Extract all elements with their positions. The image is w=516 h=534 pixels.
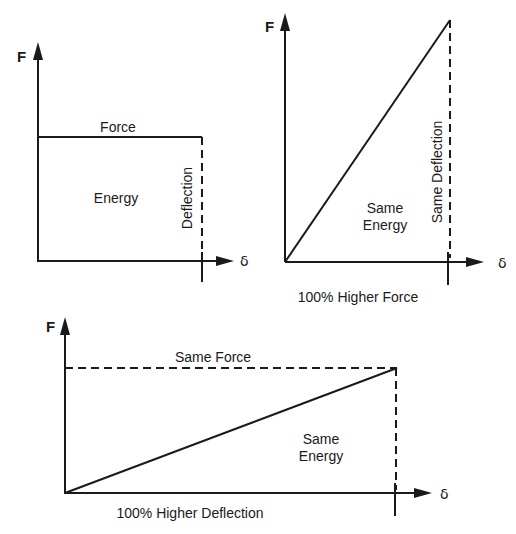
same-energy-label-line1: Same	[367, 200, 404, 216]
energy-label: Energy	[94, 190, 138, 206]
y-axis-arrow-icon	[60, 317, 70, 335]
higher-force-caption: 100% Higher Force	[298, 289, 419, 305]
panel-higher-deflection: F δ Same Force Same Energy 100% Higher D…	[46, 317, 449, 521]
x-axis-arrow-icon	[414, 488, 432, 498]
same-force-label: Same Force	[175, 349, 251, 365]
force-label: Force	[100, 119, 136, 135]
y-axis-label: F	[46, 318, 55, 335]
x-axis-label: δ	[240, 253, 249, 269]
same-energy-label-line2: Energy	[299, 448, 343, 464]
deflection-label: Deflection	[179, 167, 195, 229]
y-axis-arrow-icon	[33, 42, 43, 60]
y-axis-label: F	[265, 18, 274, 35]
same-energy-label-line1: Same	[303, 431, 340, 447]
y-axis-arrow-icon	[280, 13, 290, 31]
x-axis-label: δ	[498, 255, 507, 271]
y-axis-label: F	[17, 48, 26, 65]
x-axis-label: δ	[440, 486, 449, 502]
panel-higher-force: F δ Same Energy Same Deflection 100% Hig…	[265, 13, 507, 305]
x-axis-arrow-icon	[466, 257, 484, 267]
x-axis-arrow-icon	[216, 256, 234, 266]
panel-constant-force: F δ Force Energy Deflection	[17, 42, 249, 282]
higher-deflection-caption: 100% Higher Deflection	[116, 505, 263, 521]
load-line	[65, 368, 397, 493]
same-deflection-label: Same Deflection	[429, 121, 445, 224]
same-energy-label-line2: Energy	[363, 217, 407, 233]
